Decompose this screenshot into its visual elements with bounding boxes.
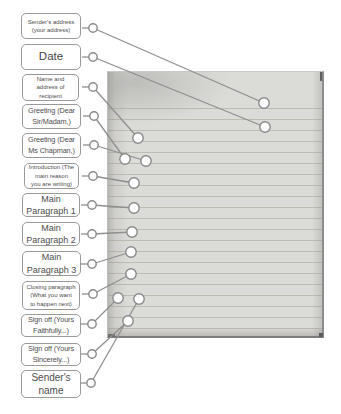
anchor-dot-sender-name — [134, 294, 144, 304]
label-box-greeting-sir-madam: Greeting (Dear Sir/Madam,) — [22, 104, 81, 129]
label-text: Name and address of recipient — [23, 75, 78, 100]
connector-dot-main-paragraph-1 — [88, 201, 96, 209]
anchor-dot-closing-paragraph — [126, 269, 136, 279]
label-box-introduction: Introduction (The main reason you are wr… — [24, 163, 79, 189]
connector-line-closing-paragraph — [93, 274, 131, 294]
anchor-dot-date — [260, 122, 270, 132]
anchor-dot-greeting-ms-chapman — [141, 156, 151, 166]
label-text: Main Paragraph 1 — [23, 193, 79, 217]
connector-dot-sign-off-faithfully — [88, 320, 96, 328]
label-box-date: Date — [21, 44, 81, 70]
anchor-dot-sign-off-sincerely — [123, 316, 133, 326]
label-box-recipient-address: Name and address of recipient — [22, 74, 79, 101]
label-box-sender-name: Sender's name — [21, 370, 81, 398]
connector-line-recipient-address — [93, 87, 138, 138]
label-box-main-paragraph-1: Main Paragraph 1 — [22, 193, 80, 217]
connector-dot-date — [89, 53, 97, 61]
label-box-sign-off-faithfully: Sign off (Yours Faithfully...) — [21, 314, 81, 337]
connector-dot-sign-off-sincerely — [88, 350, 96, 358]
label-box-main-paragraph-2: Main Paragraph 2 — [22, 222, 80, 246]
connector-dot-greeting-ms-chapman — [90, 141, 98, 149]
connector-line-main-paragraph-1 — [92, 205, 134, 208]
anchor-dot-sign-off-faithfully — [113, 293, 123, 303]
label-box-greeting-ms-chapman: Greeting (Dear Ms Chapman,) — [22, 133, 81, 158]
connector-dot-sender-name — [87, 379, 95, 387]
letter-structure-diagram: Sender's address (your address) Date Nam… — [0, 0, 341, 414]
label-text: Sender's address (your address) — [22, 18, 80, 35]
label-box-main-paragraph-3: Main Paragraph 3 — [22, 251, 81, 276]
label-text: Closing paragraph (What you want to happ… — [23, 283, 79, 308]
anchor-dot-recipient-address — [133, 133, 143, 143]
anchor-dot-introduction — [129, 178, 139, 188]
label-text: Main Paragraph 3 — [23, 251, 80, 275]
anchor-dot-main-paragraph-3 — [126, 247, 136, 257]
connector-dot-main-paragraph-2 — [88, 230, 96, 238]
connector-line-main-paragraph-3 — [92, 252, 131, 264]
label-text: Greeting (Dear Sir/Madam,) — [23, 106, 80, 126]
anchor-dot-main-paragraph-2 — [127, 227, 137, 237]
label-text: Date — [22, 50, 80, 64]
anchor-dot-main-paragraph-1 — [129, 203, 139, 213]
connector-dot-introduction — [89, 172, 97, 180]
connector-dot-greeting-sir-madam — [90, 112, 98, 120]
label-text: Introduction (The main reason you are wr… — [25, 163, 78, 188]
connector-dot-main-paragraph-3 — [88, 260, 96, 268]
label-box-sign-off-sincerely: Sign off (Yours Sincerely...) — [21, 343, 81, 366]
connector-line-main-paragraph-2 — [92, 232, 132, 234]
connector-line-introduction — [93, 176, 134, 183]
connector-line-sender-name — [91, 299, 139, 383]
anchor-dot-sender-address — [259, 98, 269, 108]
label-box-sender-address: Sender's address (your address) — [21, 13, 81, 39]
label-text: Greeting (Dear Ms Chapman,) — [23, 135, 80, 155]
label-text: Main Paragraph 2 — [23, 222, 79, 246]
label-text: Sign off (Yours Sincerely...) — [22, 344, 80, 364]
connector-dot-closing-paragraph — [89, 290, 97, 298]
anchor-dot-greeting-sir-madam — [120, 154, 130, 164]
connector-dot-recipient-address — [89, 83, 97, 91]
label-box-closing-paragraph: Closing paragraph (What you want to happ… — [22, 281, 80, 310]
connector-dot-sender-address — [89, 24, 97, 32]
label-text: Sender's name — [22, 371, 80, 398]
label-text: Sign off (Yours Faithfully...) — [22, 315, 80, 335]
